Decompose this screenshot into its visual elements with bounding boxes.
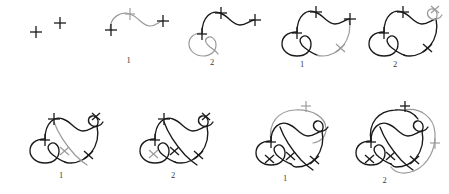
curve-segment-gray — [110, 13, 162, 30]
panel-gray-arc: 1 — [100, 0, 185, 97]
panel-gray-right-strand: 1 — [275, 0, 365, 97]
panel-gray-arc-drawing — [100, 0, 185, 97]
crossing-marker-icon — [386, 152, 395, 160]
panel-two-markers-drawing — [0, 0, 100, 97]
panel-gray-curl-drawing — [365, 0, 449, 97]
panel-gray-loop: 2 — [185, 0, 275, 97]
crossing-marker-icon — [286, 152, 295, 160]
crossing-marker-icon — [410, 156, 419, 164]
plus-marker-icon — [397, 6, 409, 18]
loop-segment-dark — [256, 141, 291, 165]
curve-segment-dark — [297, 11, 349, 32]
panel-label: 1 — [86, 56, 171, 65]
panel-label: 1 — [257, 60, 347, 69]
right-strand-dark — [65, 126, 98, 163]
plus-marker-icon — [344, 13, 356, 25]
crossing-marker-icon — [431, 6, 439, 13]
panel-gray-closing-loop: 2 — [340, 97, 449, 194]
crossing-marker-icon — [194, 151, 203, 159]
plus-marker-icon — [379, 27, 389, 39]
plus-marker-icon — [150, 134, 160, 146]
plus-marker-icon — [292, 27, 302, 39]
crossing-marker-icon — [365, 155, 374, 163]
loop-segment-gray — [189, 33, 218, 56]
crossing-marker-icon — [310, 156, 319, 164]
figure-sheet: 1 2 — [0, 0, 449, 194]
curve-segment-dark — [271, 123, 322, 141]
panel-gray-right-strand-drawing — [275, 0, 365, 97]
crossing-marker-icon — [149, 150, 158, 158]
plus-marker-icon — [54, 17, 66, 29]
diagonal-strand-dark — [280, 127, 313, 170]
loop-segment-dark — [282, 32, 317, 56]
curve-segment-dark — [371, 123, 422, 141]
crossing-marker-icon — [60, 147, 69, 155]
panel-label: 2 — [167, 58, 257, 67]
outer-arc-gray — [270, 110, 326, 143]
panel-gray-loop-drawing — [185, 0, 275, 97]
plus-marker-icon — [105, 24, 117, 36]
right-strand-dark — [404, 19, 437, 56]
crossing-marker-icon — [336, 44, 345, 52]
plus-marker-icon — [157, 15, 169, 27]
curve-segment-dark — [384, 11, 436, 32]
plus-marker-icon — [430, 138, 440, 149]
panel-label: 1 — [6, 171, 116, 180]
loop-segment-dark — [356, 141, 391, 165]
loop-segment-dark — [30, 139, 65, 163]
curl-segment-dark — [413, 121, 428, 132]
plus-marker-icon — [249, 14, 261, 26]
right-strand-gray — [317, 19, 350, 56]
crossing-marker-icon — [170, 147, 179, 155]
panel-label: 1 — [230, 174, 340, 183]
panel-row-1: 1 2 — [0, 0, 449, 97]
panel-label: 2 — [118, 171, 228, 180]
plus-marker-icon — [40, 134, 50, 146]
crossing-marker-icon — [423, 44, 432, 52]
panel-gray-curl: 2 — [365, 0, 449, 97]
panel-gray-diagonal: 1 — [20, 97, 130, 194]
plus-marker-icon — [197, 28, 207, 40]
curve-segment-dark — [202, 12, 254, 33]
crossing-marker-icon — [84, 151, 93, 159]
loop-segment-dark — [369, 32, 404, 56]
plus-marker-icon — [366, 136, 376, 148]
right-strand-dark — [175, 126, 208, 163]
plus-marker-icon — [266, 136, 276, 148]
panel-row-2: 1 — [0, 97, 449, 194]
panel-label: 2 — [330, 176, 439, 185]
panel-label: 2 — [353, 60, 437, 69]
panel-two-markers — [0, 0, 100, 97]
crossing-marker-icon — [265, 155, 274, 163]
diagonal-strand-dark — [380, 127, 413, 170]
plus-marker-icon — [125, 8, 135, 20]
closing-loop-gray — [391, 109, 435, 173]
plus-marker-icon — [30, 26, 42, 38]
plus-marker-icon — [310, 6, 322, 18]
panel-dark-diagonal: 2 — [130, 97, 240, 194]
plus-marker-icon — [215, 7, 227, 19]
